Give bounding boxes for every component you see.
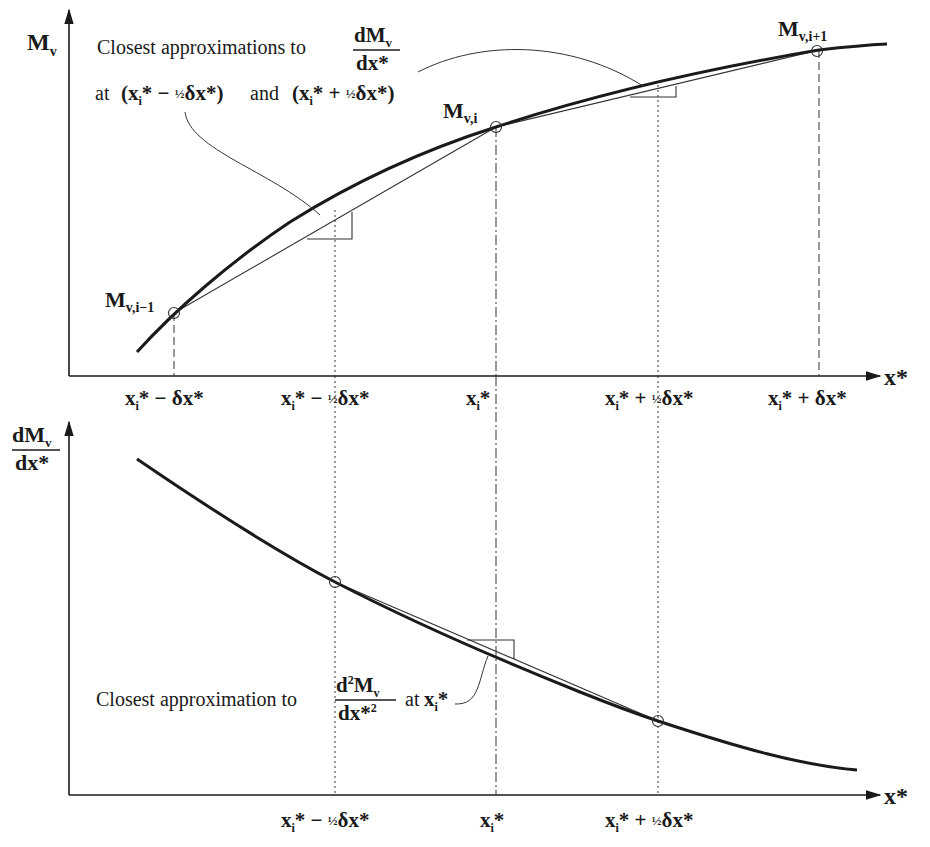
top-tick-xi-plus-half-dx: xi* + ½δx*: [605, 386, 693, 413]
bottom-tick-xi-plus-half-dx: xi* + ½δx*: [605, 808, 693, 835]
bottom-tick-xi: xi*: [480, 808, 504, 835]
top-tick-xi-plus-dx: xi* + δx*: [768, 386, 847, 413]
svg-text:dx*2: dx*2: [338, 701, 377, 725]
bottom-x-axis-label: x*: [884, 783, 908, 809]
svg-text:dMv: dMv: [12, 422, 52, 450]
bottom-annotation: Closest approximation to d2Mv dx*2 at xi…: [96, 673, 448, 725]
label-mv-i: Mv,i: [443, 98, 477, 126]
label-mv-i-plus-1: Mv,i+1: [778, 16, 827, 44]
slope-triangle-left: [307, 212, 352, 239]
svg-text:dx*: dx*: [356, 51, 389, 75]
leader-left: [185, 112, 320, 215]
svg-text:and: and: [250, 82, 279, 104]
svg-text:Closest approximation to: Closest approximation to: [96, 688, 297, 711]
svg-text:d2Mv: d2Mv: [336, 673, 380, 700]
svg-text:dx*: dx*: [15, 450, 49, 475]
leader-bottom: [455, 656, 488, 704]
svg-text:Closest approximations to: Closest approximations to: [97, 36, 306, 59]
dmv-curve: [137, 459, 857, 770]
svg-text:dMv: dMv: [354, 23, 393, 50]
bottom-y-axis-label: dMv dx*: [12, 422, 60, 475]
svg-text:xi*: xi*: [424, 687, 448, 714]
finite-difference-diagram: Mv x* Mv,i−1 Mv,i Mv,i+1: [0, 0, 930, 847]
svg-text:(xi* − ½δx*): (xi* − ½δx*): [121, 81, 223, 108]
top-tick-xi-minus-half-dx: xi* − ½δx*: [281, 386, 369, 413]
top-panel: Mv x* Mv,i−1 Mv,i Mv,i+1: [27, 10, 908, 413]
top-y-axis-label: Mv: [27, 29, 57, 59]
svg-text:at: at: [95, 82, 110, 104]
svg-text:(xi* + ½δx*): (xi* + ½δx*): [292, 81, 394, 108]
top-tick-xi: xi*: [466, 386, 490, 413]
top-tick-xi-minus-dx: xi* − δx*: [125, 386, 204, 413]
top-annotation: Closest approximations to dMv dx* at (xi…: [95, 23, 400, 108]
top-x-axis-label: x*: [884, 364, 908, 390]
svg-text:at: at: [405, 688, 420, 710]
leader-right: [418, 50, 643, 86]
bottom-tick-xi-minus-half-dx: xi* − ½δx*: [281, 808, 369, 835]
bottom-panel: dMv dx* x* Closest approximation to d2Mv: [12, 376, 908, 835]
label-mv-i-minus-1: Mv,i−1: [105, 287, 154, 315]
